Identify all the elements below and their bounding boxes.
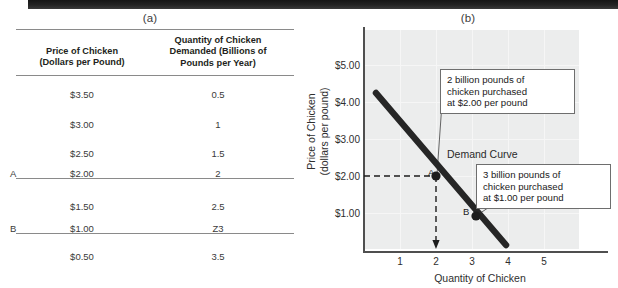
column-header-price-line2: (Dollars per Pound): [22, 57, 142, 68]
column-header-price-line1: Price of Chicken: [22, 46, 142, 57]
y-axis-title-line2: (dollars per pound): [317, 57, 330, 207]
cell-price: $0.50: [22, 251, 142, 262]
callout-b-line3: at $1.00 per pound: [483, 192, 605, 204]
column-header-quantity-line1: Quantity of Chicken: [148, 35, 288, 46]
cell-price: $3.00: [22, 119, 142, 130]
x-tick-label: 5: [534, 256, 554, 267]
panel-b-caption: (b): [318, 12, 618, 24]
cell-quantity: 2: [148, 168, 288, 179]
page-header-bar: [28, 0, 618, 9]
y-axis-line: [363, 27, 365, 253]
demand-curve-chart: $5.00 $4.00 $3.00 $2.00 $1.00 1 2 3 4 5 …: [300, 24, 618, 288]
gridline-horizontal: [364, 139, 579, 140]
gridline-horizontal: [364, 65, 579, 66]
x-axis-line: [363, 251, 608, 253]
cell-quantity: 2.5: [148, 201, 288, 212]
x-tick-label: 3: [462, 256, 482, 267]
cell-price: $1.00: [22, 223, 142, 234]
x-tick-label: 1: [390, 256, 410, 267]
cell-quantity: 1: [148, 119, 288, 130]
annotation-callout-a: 2 billion pounds of chicken purchased at…: [440, 69, 575, 114]
data-point-b-label: B: [463, 206, 469, 217]
cell-quantity: 1.5: [148, 148, 288, 159]
column-header-quantity-line2: Demanded (Billions of: [148, 46, 288, 57]
column-header-quantity-line3: Pounds per Year): [148, 58, 288, 69]
x-tick-label: 2: [426, 256, 446, 267]
cell-quantity: 3.5: [148, 251, 288, 262]
demand-schedule-table: Price of Chicken (Dollars per Pound) Qua…: [8, 28, 298, 278]
table-rule-top: [16, 29, 294, 30]
cell-price: $1.50: [22, 201, 142, 212]
x-tick-label: 4: [498, 256, 518, 267]
cell-price: $3.50: [22, 89, 142, 100]
column-header-price: Price of Chicken (Dollars per Pound): [22, 46, 142, 69]
data-point-a-label: A: [428, 167, 434, 178]
demand-curve-label: Demand Curve: [447, 148, 518, 160]
gridline-horizontal: [364, 213, 579, 214]
y-axis-title: Price of Chicken (dollars per pound): [305, 57, 330, 207]
callout-a-line2: chicken purchased: [447, 86, 569, 98]
callout-a-line3: at $2.00 per pound: [447, 97, 569, 109]
figure-root: (a) (b) Price of Chicken (Dollars per Po…: [0, 0, 618, 288]
cell-price: $2.50: [22, 148, 142, 159]
callout-b-line1: 3 billion pounds of: [483, 169, 605, 181]
y-axis-title-line1: Price of Chicken: [305, 57, 318, 207]
y-tick-label: $1.00: [302, 208, 360, 219]
column-header-quantity: Quantity of Chicken Demanded (Billions o…: [148, 35, 288, 69]
annotation-callout-b: 3 billion pounds of chicken purchased at…: [476, 164, 611, 209]
cell-price: $2.00: [22, 168, 142, 179]
table-rule-header-bottom: [16, 75, 294, 76]
cell-quantity: Z3: [148, 223, 288, 234]
cell-quantity: 0.5: [148, 89, 288, 100]
x-axis-title: Quantity of Chicken: [390, 272, 570, 284]
callout-b-line2: chicken purchased: [483, 181, 605, 193]
callout-a-line1: 2 billion pounds of: [447, 74, 569, 86]
panel-a-caption: (a): [0, 12, 300, 24]
